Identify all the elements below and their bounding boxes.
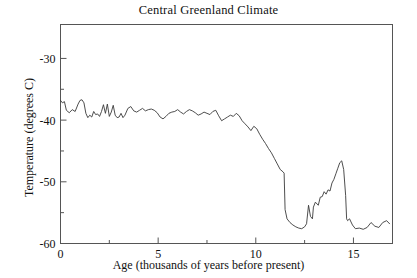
y-tick-label: -50 (40, 175, 56, 189)
y-tick-label: -60 (40, 237, 56, 251)
data-series (61, 100, 390, 230)
x-tick-label: 0 (58, 247, 64, 261)
y-tick-label: -40 (40, 114, 56, 128)
series-line (61, 100, 390, 230)
axis-tick-labels: 051015-30-40-50-60 (40, 52, 360, 261)
x-tick-label: 5 (155, 247, 161, 261)
x-tick-label: 15 (347, 247, 359, 261)
axes-frame (61, 25, 393, 244)
axis-ticks (61, 58, 354, 243)
plot-area: 051015-30-40-50-60 (0, 0, 417, 278)
y-tick-label: -30 (40, 52, 56, 66)
chart-figure: Central Greenland Climate Temperature (d… (0, 0, 417, 278)
x-tick-label: 10 (250, 247, 262, 261)
